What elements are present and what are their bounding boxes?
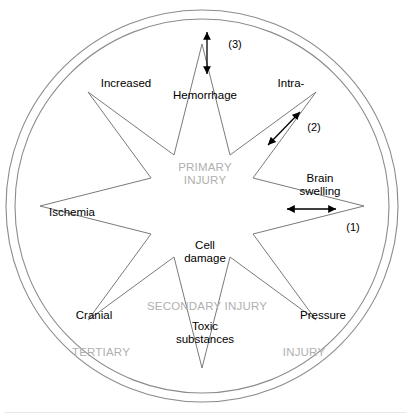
label-cranial: Cranial	[76, 309, 112, 322]
label-pressure: Pressure	[300, 309, 346, 322]
label-ischemia: Ischemia	[49, 206, 95, 219]
label-secondary-injury: SECONDARY INJURY	[147, 300, 267, 313]
label-tertiary: TERTIARY	[72, 346, 130, 359]
label-cell-damage: Cell damage	[184, 239, 226, 265]
label-increased: Increased	[101, 77, 152, 90]
label-primary-injury: PRIMARY INJURY	[178, 161, 232, 187]
label-injury: INJURY	[283, 346, 326, 359]
label-toxic-substances: Toxic substances	[176, 320, 234, 346]
bottom-divider	[4, 412, 406, 413]
callout-2-arrow	[268, 112, 300, 145]
label-intra: Intra-	[278, 77, 305, 90]
label-hemorrhage: Hemorrhage	[173, 89, 237, 102]
callout-1-label: (1)	[346, 221, 359, 234]
injury-cascade-diagram: (3) (2) (1) Increased Hemorrhage Intra- …	[0, 0, 410, 417]
label-brain-swelling: Brain swelling	[300, 172, 341, 198]
callout-3-label: (3)	[228, 38, 241, 51]
callout-2-label: (2)	[307, 121, 320, 134]
